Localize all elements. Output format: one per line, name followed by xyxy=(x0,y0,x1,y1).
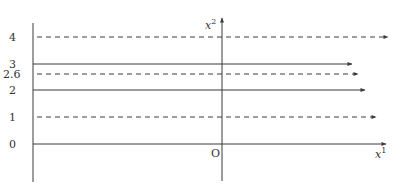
tick-label-1: 1 xyxy=(9,111,16,124)
tick-label-0: 0 xyxy=(9,138,16,151)
horizontal-axis-label-sup: 1 xyxy=(381,146,386,155)
flow-lines xyxy=(33,37,388,144)
flow-diagram: 4 3 2.6 2 1 0 O x2 x1 xyxy=(0,0,403,188)
tick-label-2: 2 xyxy=(9,84,16,97)
tick-label-2-6: 2.6 xyxy=(3,68,21,81)
origin-label: O xyxy=(211,147,220,160)
tick-label-4: 4 xyxy=(9,31,16,44)
vertical-axis-label: x2 xyxy=(205,17,216,32)
vertical-axis-label-sup: 2 xyxy=(211,17,216,26)
horizontal-axis-label: x1 xyxy=(375,146,386,161)
